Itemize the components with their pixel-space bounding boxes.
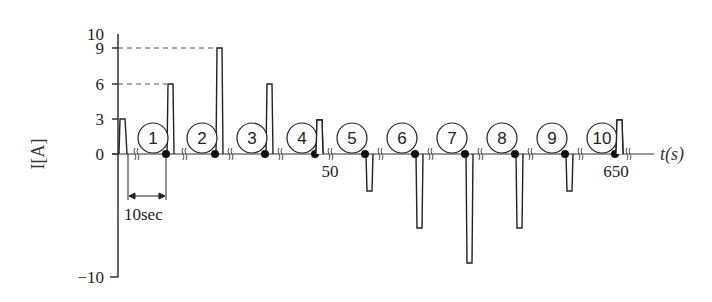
- svg-text:6: 6: [397, 129, 406, 148]
- marker-2: 2: [187, 123, 219, 158]
- pulse-1: [167, 84, 174, 154]
- pulse-5: [366, 154, 373, 191]
- interval-annotation: [128, 154, 166, 200]
- svg-text:10: 10: [593, 129, 612, 148]
- marker-8: 8: [487, 123, 519, 158]
- svg-text:9: 9: [547, 129, 556, 148]
- pulse-8: [516, 154, 523, 228]
- y-tick-label-0: 0: [96, 145, 105, 164]
- x-label-650: 650: [603, 162, 629, 181]
- svg-text:1: 1: [148, 129, 157, 148]
- marker-5: 5: [337, 123, 369, 158]
- marker-6: 6: [387, 123, 419, 158]
- svg-text:7: 7: [447, 129, 456, 148]
- y-tick-label-9: 9: [96, 39, 105, 58]
- svg-text:2: 2: [197, 129, 206, 148]
- pulse-3: [266, 84, 273, 154]
- marker-10: 10: [587, 123, 619, 158]
- y-tick-label-3: 3: [96, 110, 105, 129]
- svg-text:4: 4: [297, 129, 306, 148]
- y-axis-title: I[A]: [28, 139, 48, 170]
- marker-7: 7: [437, 123, 469, 158]
- current-pulse-diagram: 10 9 6 3 0 −10 I[A] t(s) 1: [0, 0, 712, 302]
- marker-9: 9: [537, 123, 569, 158]
- y-tick-label-6: 6: [96, 75, 105, 94]
- marker-1: 1: [138, 123, 170, 158]
- svg-text:5: 5: [347, 129, 356, 148]
- pulse-6: [416, 154, 423, 228]
- diagram-canvas: 10 9 6 3 0 −10 I[A] t(s) 1: [0, 0, 712, 302]
- x-axis-title: t(s): [660, 144, 684, 165]
- marker-3: 3: [237, 123, 269, 158]
- y-tick-label-neg10: −10: [77, 268, 104, 287]
- interval-label: 10sec: [124, 205, 163, 224]
- svg-text:8: 8: [497, 129, 506, 148]
- marker-4: 4: [287, 123, 319, 158]
- pulse-7: [466, 154, 473, 263]
- svg-text:3: 3: [247, 129, 256, 148]
- pulse-initial: [119, 119, 127, 154]
- pulse-9: [566, 154, 573, 191]
- x-label-50: 50: [322, 162, 339, 181]
